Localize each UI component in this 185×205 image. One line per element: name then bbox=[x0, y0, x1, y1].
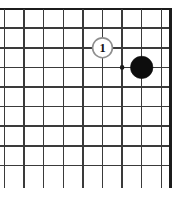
grid-horizontal-lines bbox=[0, 9, 172, 165]
grid-vertical-lines bbox=[5, 8, 171, 188]
star-point-hoshi bbox=[120, 65, 125, 70]
goban-canvas: 1 bbox=[0, 0, 185, 205]
white-stone-move-number-label: 1 bbox=[99, 41, 105, 55]
go-board-diagram: 1 bbox=[0, 0, 185, 205]
black-stone[interactable] bbox=[131, 56, 153, 78]
star-points bbox=[120, 65, 125, 70]
